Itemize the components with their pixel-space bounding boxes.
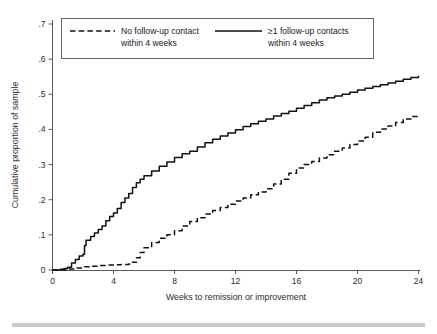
x-tick-label: 16 xyxy=(292,276,302,286)
footer-divider-bar xyxy=(12,323,425,327)
legend-label-no-followup-line2: within 4 weeks xyxy=(120,38,177,48)
y-tick-label: .4 xyxy=(38,124,45,134)
x-tick-label: 12 xyxy=(231,276,241,286)
legend: No follow-up contact within 4 weeks ≥1 f… xyxy=(62,19,374,59)
legend-box xyxy=(62,19,374,59)
x-tick-label: 20 xyxy=(353,276,363,286)
x-tick-label: 8 xyxy=(172,276,177,286)
y-tick-label: .3 xyxy=(38,160,45,170)
y-axis-title: Cumulative proportion of sample xyxy=(10,82,20,209)
y-tick-label: .2 xyxy=(38,195,45,205)
figure-container: 0.1.2.3.4.5.6.7 Cumulative proportion of… xyxy=(0,0,437,334)
legend-label-no-followup-line1: No follow-up contact xyxy=(121,26,199,36)
y-tick-label: .6 xyxy=(38,54,45,64)
y-tick-label: 0 xyxy=(41,265,46,275)
y-tick-label: .5 xyxy=(38,89,45,99)
y-tick-label: .1 xyxy=(38,230,45,240)
x-tick-label: 0 xyxy=(50,276,55,286)
legend-label-with-followup-line2: within 4 weeks xyxy=(267,38,324,48)
x-tick-label: 4 xyxy=(111,276,116,286)
x-axis-title: Weeks to remission or improvement xyxy=(166,292,307,302)
survival-curve-chart: 0.1.2.3.4.5.6.7 Cumulative proportion of… xyxy=(0,0,437,334)
x-tick-label: 24 xyxy=(414,276,424,286)
y-tick-label: .7 xyxy=(38,19,45,29)
legend-label-with-followup-line1: ≥1 follow-up contacts xyxy=(268,26,349,36)
